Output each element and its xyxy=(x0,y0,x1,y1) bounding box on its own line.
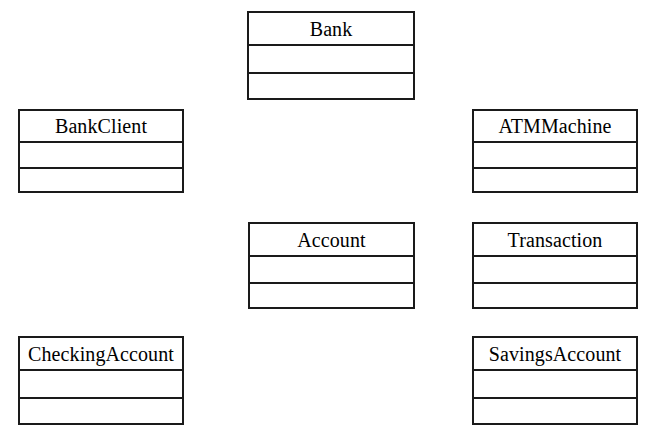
uml-class-savings-account[interactable]: SavingsAccount xyxy=(472,336,638,425)
uml-class-name-checking-account: CheckingAccount xyxy=(25,344,177,364)
uml-class-atm-machine[interactable]: ATMMachine xyxy=(472,109,638,193)
uml-name-compartment-transaction: Transaction xyxy=(474,224,636,257)
uml-operations-compartment-transaction xyxy=(474,284,636,307)
uml-operations-compartment-bank-client xyxy=(20,169,182,191)
uml-operations-compartment-savings-account xyxy=(474,399,636,423)
uml-attributes-compartment-savings-account xyxy=(474,371,636,399)
uml-class-bank-client[interactable]: BankClient xyxy=(18,109,184,193)
uml-class-name-savings-account: SavingsAccount xyxy=(486,344,625,364)
uml-class-account[interactable]: Account xyxy=(248,222,415,309)
uml-attributes-compartment-bank xyxy=(249,46,413,74)
uml-class-name-account: Account xyxy=(294,230,368,250)
uml-class-name-bank-client: BankClient xyxy=(52,116,150,136)
uml-attributes-compartment-bank-client xyxy=(20,143,182,169)
uml-class-diagram-canvas: BankBankClientATMMachineAccountTransacti… xyxy=(0,0,657,445)
uml-class-transaction[interactable]: Transaction xyxy=(472,222,638,309)
uml-attributes-compartment-account xyxy=(250,257,413,284)
uml-class-name-transaction: Transaction xyxy=(505,230,606,250)
uml-operations-compartment-bank xyxy=(249,74,413,98)
uml-name-compartment-atm-machine: ATMMachine xyxy=(474,111,636,143)
uml-operations-compartment-atm-machine xyxy=(474,169,636,191)
uml-operations-compartment-account xyxy=(250,284,413,307)
uml-operations-compartment-checking-account xyxy=(20,399,182,423)
uml-name-compartment-savings-account: SavingsAccount xyxy=(474,338,636,371)
uml-attributes-compartment-checking-account xyxy=(20,371,182,399)
uml-attributes-compartment-atm-machine xyxy=(474,143,636,169)
uml-attributes-compartment-transaction xyxy=(474,257,636,284)
uml-name-compartment-bank: Bank xyxy=(249,13,413,46)
uml-class-name-atm-machine: ATMMachine xyxy=(495,116,614,136)
uml-name-compartment-checking-account: CheckingAccount xyxy=(20,338,182,371)
uml-class-bank[interactable]: Bank xyxy=(247,11,415,100)
uml-name-compartment-account: Account xyxy=(250,224,413,257)
uml-class-checking-account[interactable]: CheckingAccount xyxy=(18,336,184,425)
uml-class-name-bank: Bank xyxy=(307,19,356,39)
uml-name-compartment-bank-client: BankClient xyxy=(20,111,182,143)
